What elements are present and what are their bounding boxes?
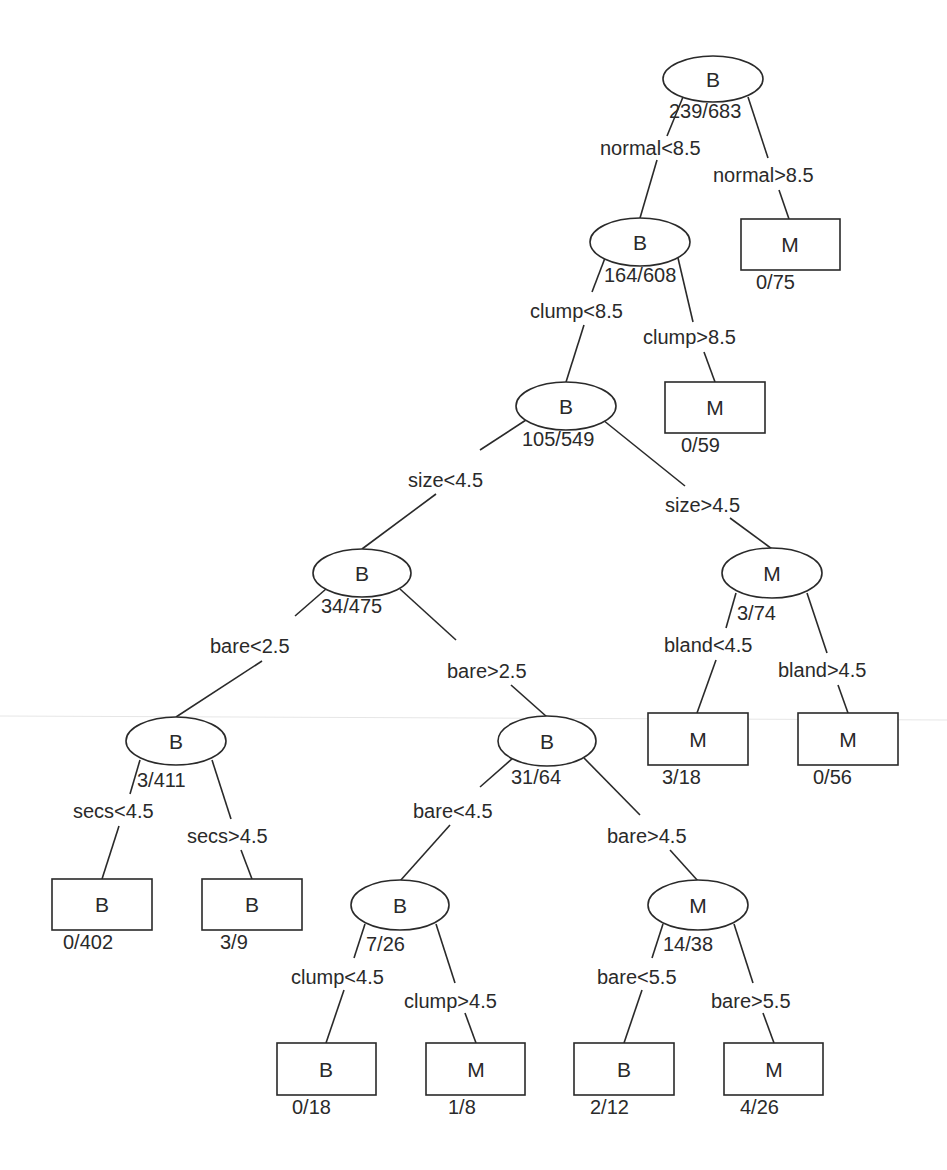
edge-n5-n7-lower — [176, 661, 262, 717]
node-count: 0/59 — [681, 434, 720, 456]
split-label: bland>4.5 — [778, 659, 866, 681]
tree-node-internal: B 239/683 — [663, 56, 763, 122]
edge-n8-n14-lower — [670, 850, 698, 881]
edge-n13-n15 — [354, 924, 365, 958]
tree-node-internal: B 105/549 — [516, 382, 616, 450]
edge-n14-n18-lower — [763, 1013, 774, 1043]
split-label: bare>4.5 — [607, 825, 687, 847]
split-label: clump<4.5 — [291, 966, 384, 988]
tree-node-leaf: M 0/59 — [665, 382, 765, 456]
tree-node-leaf: B 2/12 — [574, 1043, 674, 1118]
tree-node-internal: M 14/38 — [648, 880, 748, 955]
edge-n14-n18 — [734, 924, 753, 983]
edge-n5-n8 — [400, 589, 456, 640]
split-label: size<4.5 — [408, 469, 483, 491]
node-class: B — [540, 730, 554, 753]
node-count: 0/75 — [756, 271, 795, 293]
tree-node-internal: B 164/608 — [590, 218, 690, 286]
node-class: B — [95, 893, 109, 916]
tree-node-leaf: B 0/18 — [277, 1043, 376, 1118]
node-count: 0/402 — [63, 931, 113, 953]
node-class: B — [319, 1058, 333, 1081]
edge-n13-n16-lower — [465, 1013, 476, 1043]
edge-n7-n12-lower — [241, 850, 252, 879]
edge-n14-n17 — [652, 924, 663, 958]
split-label: clump<8.5 — [530, 300, 623, 322]
split-label: clump>8.5 — [643, 326, 736, 348]
node-class: B — [706, 68, 720, 91]
edge-n8-n14 — [584, 758, 640, 815]
node-count: 1/8 — [448, 1096, 476, 1118]
edge-n0-n2-lower — [779, 190, 789, 219]
node-class: B — [393, 894, 407, 917]
node-count: 4/26 — [740, 1096, 779, 1118]
tree-node-leaf: M 4/26 — [724, 1043, 823, 1118]
edge-n13-n16 — [436, 924, 455, 983]
edge-n6-n10 — [807, 593, 827, 653]
tree-node-leaf: M 1/8 — [426, 1043, 525, 1118]
tree-node-internal: M 3/74 — [722, 548, 822, 624]
node-count: 31/64 — [511, 766, 561, 788]
node-count: 3/18 — [662, 766, 701, 788]
tree-node-leaf: B 3/9 — [202, 879, 302, 953]
split-label: normal>8.5 — [713, 164, 814, 186]
tree-node-leaf: M 0/75 — [741, 219, 840, 293]
tree-node-internal: B 34/475 — [313, 549, 411, 617]
node-count: 14/38 — [663, 933, 713, 955]
tree-node-internal: B 31/64 — [498, 716, 596, 788]
split-label: bare<5.5 — [597, 966, 677, 988]
edge-n1-n4-lower — [704, 352, 715, 382]
node-count: 3/9 — [220, 931, 248, 953]
edge-n8-n13-lower — [400, 825, 450, 881]
node-count: 7/26 — [366, 933, 405, 955]
edge-n6-n9-lower — [697, 660, 716, 713]
edge-n7-n11-lower — [102, 826, 119, 879]
edge-n0-n2 — [748, 97, 768, 158]
split-label: secs>4.5 — [187, 825, 268, 847]
split-label: size>4.5 — [665, 494, 740, 516]
node-count: 239/683 — [669, 100, 741, 122]
node-class: M — [781, 233, 799, 256]
node-class: M — [839, 728, 857, 751]
edge-n0-n1-lower — [640, 160, 657, 218]
node-class: M — [763, 562, 781, 585]
edge-n7-n12 — [212, 760, 231, 819]
edge-n13-n15-lower — [326, 990, 344, 1043]
split-label: bare<4.5 — [413, 800, 493, 822]
edge-n3-n5-lower — [362, 494, 436, 549]
node-count: 164/608 — [604, 264, 676, 286]
split-label: bare>2.5 — [447, 660, 527, 682]
node-class: B — [633, 231, 647, 254]
tree-node-leaf: M 3/18 — [648, 713, 748, 788]
node-count: 105/549 — [522, 428, 594, 450]
tree-node-internal: B 7/26 — [351, 880, 449, 955]
node-count: 2/12 — [590, 1096, 629, 1118]
edge-n6-n10-lower — [838, 685, 848, 713]
edge-n14-n17-lower — [624, 990, 642, 1043]
node-count: 0/56 — [813, 766, 852, 788]
node-class: M — [689, 894, 707, 917]
edge-n1-n3-lower — [566, 325, 584, 382]
edge-n1-n4 — [678, 258, 693, 322]
split-label: clump>4.5 — [404, 990, 497, 1012]
node-class: M — [706, 396, 724, 419]
node-class: B — [617, 1058, 631, 1081]
split-label: normal<8.5 — [600, 137, 701, 159]
tree-node-leaf: M 0/56 — [798, 713, 898, 788]
node-count: 3/74 — [737, 602, 776, 624]
node-count: 34/475 — [321, 595, 382, 617]
node-class: M — [689, 728, 707, 751]
split-label: bare<2.5 — [210, 635, 290, 657]
edge-n8-n13 — [480, 758, 513, 787]
edge-n5-n8-lower — [511, 685, 547, 717]
node-class: B — [355, 562, 369, 585]
split-label: bland<4.5 — [664, 634, 752, 656]
decision-tree-diagram: normal<8.5 normal>8.5 clump<8.5 clump>8.… — [0, 0, 947, 1170]
edge-n3-n5 — [480, 420, 526, 450]
edge-n3-n6-lower — [730, 518, 772, 549]
node-class: B — [559, 395, 573, 418]
node-count: 3/411 — [137, 769, 186, 791]
split-label: secs<4.5 — [73, 800, 154, 822]
split-label: bare>5.5 — [711, 990, 791, 1012]
tree-node-internal: B 3/411 — [126, 717, 226, 791]
